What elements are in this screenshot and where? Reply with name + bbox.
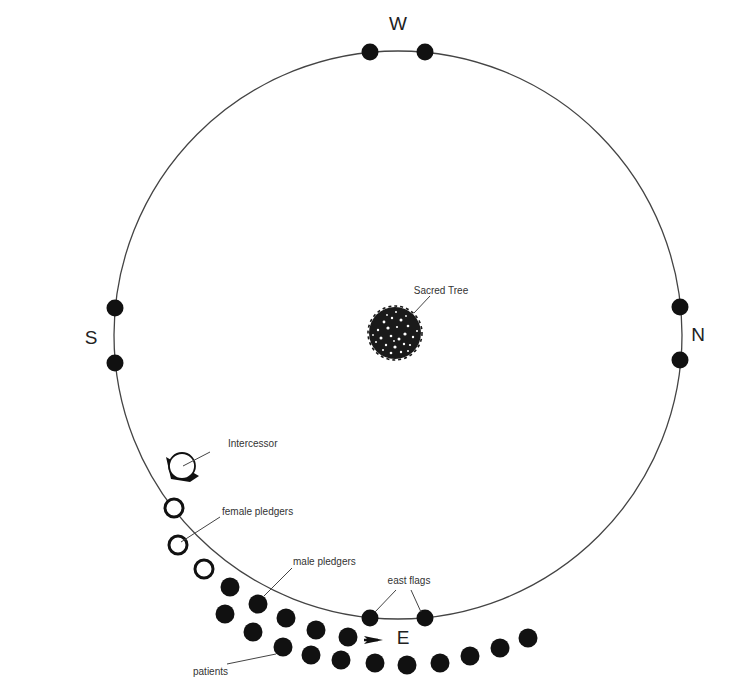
female-pledgers-label: female pledgers — [222, 506, 293, 517]
east-flags-leader — [411, 590, 421, 612]
female-pledger — [165, 499, 183, 517]
north-flags — [672, 299, 689, 369]
patients-label: patients — [193, 666, 228, 677]
patient — [519, 629, 538, 648]
patient — [332, 651, 351, 670]
patients-leader — [227, 654, 276, 664]
male-pledger — [307, 621, 326, 640]
flag-marker — [107, 355, 124, 372]
sacred-tree-label: Sacred Tree — [414, 285, 469, 296]
flag-marker — [672, 299, 689, 316]
sacred-tree-icon — [368, 306, 422, 360]
sun-dance-arena-diagram: W S N E east flags — [0, 0, 729, 689]
east-flags-leader — [375, 590, 396, 612]
arrow-east-icon — [364, 636, 383, 644]
female-pledger — [195, 560, 213, 578]
direction-west: W — [389, 13, 407, 34]
flag-marker — [362, 610, 379, 627]
male-pledger — [221, 578, 240, 597]
male-pledger — [277, 609, 296, 628]
male-pledgers-label: male pledgers — [293, 556, 356, 567]
flag-marker — [672, 352, 689, 369]
intercessor-label: Intercessor — [228, 438, 278, 449]
flag-marker — [362, 44, 379, 61]
patient — [461, 647, 480, 666]
patient — [216, 605, 235, 624]
east-flags — [362, 610, 434, 627]
patient — [274, 638, 293, 657]
female-pledgers — [165, 499, 213, 578]
female-pledger — [169, 536, 187, 554]
direction-north: N — [691, 324, 705, 345]
patient — [302, 646, 321, 665]
east-flags-label: east flags — [388, 575, 431, 586]
direction-south: S — [85, 327, 98, 348]
south-flags — [107, 300, 124, 372]
sacred-tree-leader — [414, 296, 430, 313]
flag-marker — [417, 44, 434, 61]
male-pledger — [249, 595, 268, 614]
intercessor-icon — [166, 453, 199, 482]
direction-east: E — [397, 627, 410, 648]
west-flags — [362, 44, 434, 61]
patient — [491, 639, 510, 658]
patient — [431, 654, 450, 673]
male-pledger — [339, 628, 358, 647]
patient — [366, 654, 385, 673]
flag-marker — [417, 610, 434, 627]
flag-marker — [107, 300, 124, 317]
patient — [244, 623, 263, 642]
patient — [398, 656, 417, 675]
